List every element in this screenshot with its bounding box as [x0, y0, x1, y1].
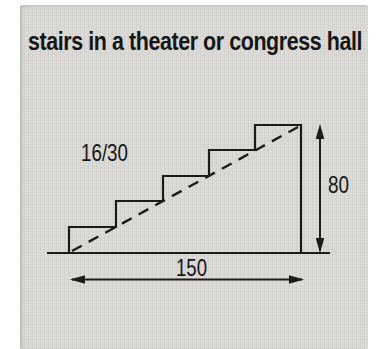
- length-dimension-label: 150: [176, 254, 207, 281]
- height-dimension-label: 80: [328, 171, 349, 198]
- arrow-up-icon: [316, 124, 325, 139]
- arrow-down-icon: [316, 238, 325, 253]
- height-dimension: 80: [316, 124, 349, 253]
- arrow-right-icon: [289, 275, 304, 284]
- page-title: stairs in a theater or congress hall: [28, 26, 362, 56]
- riser-tread-ratio-label: 16/30: [81, 139, 128, 166]
- paper-background: stairs in a theater or congress hall 16/…: [20, 5, 368, 349]
- scanned-page: stairs in a theater or congress hall 16/…: [0, 0, 388, 349]
- stairs-diagram: stairs in a theater or congress hall 16/…: [20, 5, 368, 349]
- length-dimension: 150: [70, 254, 304, 284]
- arrow-left-icon: [70, 275, 85, 284]
